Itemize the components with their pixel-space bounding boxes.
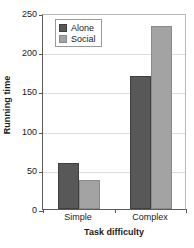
y-axis-tick-mark <box>39 133 43 134</box>
legend-swatch-social <box>59 35 67 43</box>
bar-chart: Running time 050100150200250 AloneSocial… <box>0 0 194 248</box>
y-axis-tick-mark <box>39 15 43 16</box>
y-axis-tick-label: 200 <box>22 48 37 58</box>
bar-social-complex <box>151 26 172 209</box>
y-axis-tick-label: 50 <box>27 166 37 176</box>
x-axis-tick-labels: SimpleComplex <box>42 212 186 226</box>
x-axis-title: Task difficulty <box>42 227 186 237</box>
y-axis-title: Running time <box>0 0 14 210</box>
legend-label: Social <box>71 34 96 44</box>
x-axis-tick-mark <box>186 209 187 213</box>
bar-alone-complex <box>130 76 151 209</box>
y-axis-tick-mark <box>39 54 43 55</box>
x-axis-tick-label: Simple <box>64 212 92 222</box>
legend-label: Alone <box>71 23 94 33</box>
bar-alone-simple <box>58 163 79 209</box>
y-axis-tick-mark <box>39 172 43 173</box>
x-axis-tick-label: Complex <box>132 212 168 222</box>
y-axis-title-text: Running time <box>2 76 12 135</box>
y-axis-tick-label: 150 <box>22 87 37 97</box>
legend: AloneSocial <box>55 19 102 47</box>
y-axis-tick-label: 100 <box>22 127 37 137</box>
legend-swatch-alone <box>59 24 67 32</box>
legend-item: Alone <box>59 22 96 33</box>
bar-social-simple <box>79 180 100 209</box>
y-axis-tick-mark <box>39 93 43 94</box>
legend-item: Social <box>59 33 96 44</box>
y-axis-tick-label: 0 <box>32 205 37 215</box>
plot-area: AloneSocial <box>42 14 186 210</box>
y-axis-tick-labels: 050100150200250 <box>14 0 40 248</box>
y-axis-tick-label: 250 <box>22 9 37 19</box>
